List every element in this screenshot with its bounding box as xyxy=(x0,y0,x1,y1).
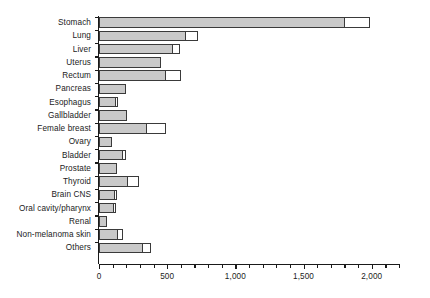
category-label: Others xyxy=(0,241,95,254)
bar-segment-white[interactable] xyxy=(122,150,126,160)
x-axis-minor-tick xyxy=(385,264,386,268)
bar-segment-gray[interactable] xyxy=(99,163,117,173)
bar-row[interactable] xyxy=(99,56,399,69)
bar-segment-white[interactable] xyxy=(117,229,123,239)
x-axis-minor-tick xyxy=(276,264,277,268)
bar-row[interactable] xyxy=(99,162,399,175)
bar-segment-white[interactable] xyxy=(344,17,370,27)
x-axis-minor-tick xyxy=(113,264,114,268)
category-label: Uterus xyxy=(0,56,95,69)
x-axis-minor-tick xyxy=(263,264,264,268)
category-label: Stomach xyxy=(0,16,95,29)
bar-segment-gray[interactable] xyxy=(99,243,143,253)
bar-segment-gray[interactable] xyxy=(99,123,147,133)
x-axis-minor-tick xyxy=(358,264,359,268)
x-axis-minor-tick xyxy=(331,264,332,268)
category-label: Pancreas xyxy=(0,82,95,95)
x-axis-minor-tick xyxy=(290,264,291,268)
bar-row[interactable] xyxy=(99,82,399,95)
bar-row[interactable] xyxy=(99,122,399,135)
x-axis-major-tick xyxy=(304,264,305,269)
bar-segment-gray[interactable] xyxy=(99,150,123,160)
x-axis-minor-tick xyxy=(194,264,195,268)
category-label: Rectum xyxy=(0,69,95,82)
bar-segment-gray[interactable] xyxy=(99,97,116,107)
x-axis-minor-tick xyxy=(222,264,223,268)
bar-row[interactable] xyxy=(99,188,399,201)
category-label: Gallbladder xyxy=(0,109,95,122)
x-axis-minor-tick xyxy=(249,264,250,268)
category-label: Thyroid xyxy=(0,175,95,188)
x-axis-major-tick xyxy=(167,264,168,269)
bar-row[interactable] xyxy=(99,135,399,148)
bar-chart: StomachLungLiverUterusRectumPancreasEsop… xyxy=(0,0,430,298)
x-axis-minor-tick xyxy=(344,264,345,268)
x-axis-minor-tick xyxy=(154,264,155,268)
category-label: Bladder xyxy=(0,149,95,162)
bar-segment-gray[interactable] xyxy=(99,84,126,94)
x-axis-minor-tick xyxy=(140,264,141,268)
bar-segment-white[interactable] xyxy=(115,97,118,107)
bar-segment-white[interactable] xyxy=(165,70,181,80)
bar-segment-gray[interactable] xyxy=(99,70,166,80)
category-label: Prostate xyxy=(0,162,95,175)
x-axis-tick-label: 2,000 xyxy=(361,272,382,281)
plot-area xyxy=(99,16,399,264)
category-label: Esophagus xyxy=(0,96,95,109)
bar-row[interactable] xyxy=(99,175,399,188)
x-axis-major-tick xyxy=(372,264,373,269)
x-axis-major-tick xyxy=(99,264,100,269)
bar-segment-white[interactable] xyxy=(185,31,198,41)
x-axis-minor-tick xyxy=(399,264,400,268)
x-axis-minor-tick xyxy=(208,264,209,268)
category-label: Female breast xyxy=(0,122,95,135)
bar-segment-white[interactable] xyxy=(113,203,116,213)
category-label: Oral cavity/pharynx xyxy=(0,202,95,215)
bar-segment-gray[interactable] xyxy=(99,203,114,213)
category-label: Liver xyxy=(0,43,95,56)
bar-segment-white[interactable] xyxy=(142,243,151,253)
bar-segment-gray[interactable] xyxy=(99,216,107,226)
category-label: Ovary xyxy=(0,135,95,148)
bar-segment-gray[interactable] xyxy=(99,110,127,120)
category-axis-labels: StomachLungLiverUterusRectumPancreasEsop… xyxy=(0,16,95,255)
bar-row[interactable] xyxy=(99,228,399,241)
bar-segment-gray[interactable] xyxy=(99,17,345,27)
bar-segment-gray[interactable] xyxy=(99,137,112,147)
x-axis-minor-tick xyxy=(126,264,127,268)
bar-segment-gray[interactable] xyxy=(99,229,118,239)
bar-segment-white[interactable] xyxy=(127,176,138,186)
bar-segment-gray[interactable] xyxy=(99,44,173,54)
bar-segment-gray[interactable] xyxy=(99,57,161,67)
bar-segment-gray[interactable] xyxy=(99,31,186,41)
bar-row[interactable] xyxy=(99,241,399,254)
bar-segment-white[interactable] xyxy=(146,123,166,133)
bar-row[interactable] xyxy=(99,109,399,122)
category-label: Non-melanoma skin xyxy=(0,228,95,241)
bar-segment-white[interactable] xyxy=(114,190,117,200)
bar-segment-gray[interactable] xyxy=(99,176,128,186)
bar-row[interactable] xyxy=(99,29,399,42)
bar-row[interactable] xyxy=(99,69,399,82)
category-label: Brain CNS xyxy=(0,188,95,201)
category-label: Renal xyxy=(0,215,95,228)
bar-row[interactable] xyxy=(99,43,399,56)
bar-row[interactable] xyxy=(99,202,399,215)
x-axis-tick-label: 1,000 xyxy=(225,272,246,281)
x-axis-minor-tick xyxy=(317,264,318,268)
category-label: Lung xyxy=(0,29,95,42)
x-axis-tick-label: 0 xyxy=(97,272,102,281)
x-axis-tick-label: 500 xyxy=(160,272,174,281)
x-axis-minor-tick xyxy=(181,264,182,268)
bar-row[interactable] xyxy=(99,149,399,162)
bar-row[interactable] xyxy=(99,215,399,228)
bar-segment-gray[interactable] xyxy=(99,190,115,200)
bar-segment-white[interactable] xyxy=(172,44,181,54)
x-axis-major-tick xyxy=(235,264,236,269)
bar-row[interactable] xyxy=(99,96,399,109)
bar-row[interactable] xyxy=(99,16,399,29)
x-axis-tick-label: 1,500 xyxy=(293,272,314,281)
